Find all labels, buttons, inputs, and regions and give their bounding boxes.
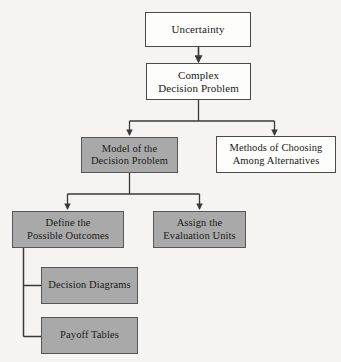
node-payoff-tables[interactable]: Payoff Tables bbox=[41, 317, 138, 354]
flowchart-diagram: Uncertainty Complex Decision Problem Mod… bbox=[0, 0, 341, 362]
node-define-the-possible-outcomes-line-2: Possible Outcomes bbox=[27, 230, 109, 242]
node-decision-diagrams[interactable]: Decision Diagrams bbox=[41, 267, 138, 304]
node-uncertainty[interactable]: Uncertainty bbox=[145, 12, 251, 47]
node-complex-decision-problem[interactable]: Complex Decision Problem bbox=[146, 63, 251, 100]
node-assign-the-evaluation-units[interactable]: Assign the Evaluation Units bbox=[153, 211, 246, 248]
node-methods-of-choosing-among-alternatives[interactable]: Methods of Choosing Among Alternatives bbox=[216, 136, 336, 173]
node-model-of-the-decision-problem-line-1: Model of the bbox=[102, 143, 157, 155]
node-payoff-tables-line-1: Payoff Tables bbox=[60, 329, 119, 341]
node-complex-decision-problem-line-1: Complex bbox=[178, 69, 219, 82]
edge-define-outcomes-children bbox=[24, 248, 42, 337]
node-model-of-the-decision-problem[interactable]: Model of the Decision Problem bbox=[81, 137, 178, 173]
node-define-the-possible-outcomes-line-1: Define the bbox=[45, 217, 90, 229]
node-model-of-the-decision-problem-line-2: Decision Problem bbox=[91, 155, 168, 167]
edge-model-problem-split bbox=[68, 173, 200, 209]
node-assign-the-evaluation-units-line-1: Assign the bbox=[177, 217, 223, 229]
node-complex-decision-problem-line-2: Decision Problem bbox=[158, 82, 239, 95]
node-uncertainty-line-1: Uncertainty bbox=[171, 23, 224, 36]
node-decision-diagrams-line-1: Decision Diagrams bbox=[48, 279, 130, 291]
connector-lines bbox=[0, 0, 341, 362]
node-methods-of-choosing-among-alternatives-line-2: Among Alternatives bbox=[233, 155, 320, 167]
node-define-the-possible-outcomes[interactable]: Define the Possible Outcomes bbox=[12, 211, 124, 248]
node-assign-the-evaluation-units-line-2: Evaluation Units bbox=[163, 230, 235, 242]
node-methods-of-choosing-among-alternatives-line-1: Methods of Choosing bbox=[230, 142, 323, 154]
edge-complex-problem-split bbox=[130, 100, 275, 135]
